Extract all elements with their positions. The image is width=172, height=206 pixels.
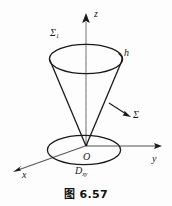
label-region-subscript: xy — [82, 170, 87, 177]
label-axis-z: z — [94, 9, 98, 19]
z-axis-arrowhead — [82, 13, 90, 23]
label-height-h: h — [124, 48, 129, 58]
label-axis-y: y — [152, 154, 156, 164]
figure-6-57: Σ1 h Σ z y x O Dxy 图 6.57 — [0, 0, 172, 206]
figure-caption: 图 6.57 — [0, 185, 172, 201]
sigma-leader-arrow — [109, 103, 131, 117]
label-sigma-1: Σ1 — [50, 28, 59, 38]
y-axis — [86, 143, 162, 149]
z-axis — [82, 13, 90, 146]
label-sigma-surface: Σ — [133, 110, 139, 120]
label-origin-o: O — [83, 152, 90, 162]
label-axis-x: x — [22, 170, 26, 180]
sigma-leader-line — [109, 103, 126, 114]
label-region-dxy: Dxy — [75, 166, 87, 176]
label-sigma-1-subscript: 1 — [56, 32, 59, 39]
sigma-leader-arrowhead — [123, 110, 132, 117]
